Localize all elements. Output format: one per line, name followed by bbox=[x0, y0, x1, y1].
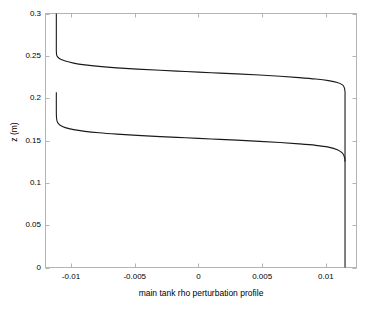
y-tick-label: 0.05 bbox=[8, 220, 41, 230]
y-tick-label: 0.1 bbox=[8, 178, 41, 188]
data-line bbox=[56, 14, 345, 162]
axes-frame bbox=[46, 14, 357, 268]
x-tick-label: -0.005 bbox=[123, 272, 146, 282]
y-axis-label: z (m) bbox=[9, 102, 19, 162]
data-series-group bbox=[56, 14, 345, 268]
y-tick-label: 0.25 bbox=[8, 51, 41, 61]
x-axis-label: main tank rho perturbation profile bbox=[45, 288, 357, 298]
figure: -0.01-0.00500.0050.01 00.050.10.150.20.2… bbox=[0, 0, 372, 311]
x-tick-label: 0.01 bbox=[318, 272, 334, 282]
data-line bbox=[56, 92, 345, 267]
plot-canvas bbox=[0, 0, 372, 311]
x-tick-label: 0 bbox=[196, 272, 200, 282]
x-tick-label: 0.005 bbox=[252, 272, 272, 282]
y-tick-label: 0.3 bbox=[8, 9, 41, 19]
y-tick-label: 0 bbox=[8, 263, 41, 273]
y-axis-ticks bbox=[46, 15, 357, 269]
x-axis-ticks bbox=[72, 14, 327, 268]
x-tick-label: -0.01 bbox=[62, 272, 80, 282]
